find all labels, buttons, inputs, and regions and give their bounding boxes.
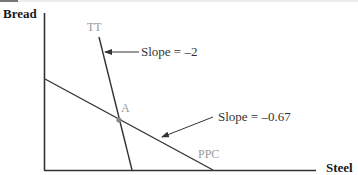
ppc-label: PPC [198, 147, 219, 162]
point-a-marker [116, 117, 121, 122]
ppc-slope-arrow [162, 117, 213, 137]
tt-slope-annotation: Slope = –2 [141, 44, 197, 60]
x-axis-label: Steel [326, 160, 353, 175]
point-a-label: A [121, 101, 130, 116]
ppc-slope-annotation: Slope = –0.67 [218, 109, 291, 125]
y-axis-label: Bread [3, 6, 37, 22]
tt-label: TT [87, 20, 102, 35]
diagram-canvas [0, 0, 358, 175]
